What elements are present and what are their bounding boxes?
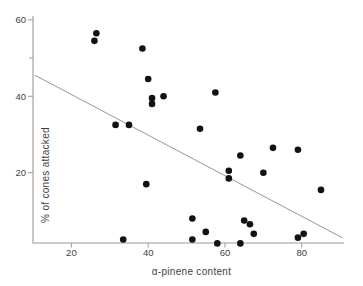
y-tick-label: 20 [15, 167, 26, 178]
data-point [202, 229, 209, 236]
axes [33, 16, 344, 243]
data-point [189, 215, 196, 222]
regression-line [35, 75, 342, 237]
data-point [160, 93, 167, 100]
data-point [295, 146, 302, 153]
scatter-chart: 20406080204060α-pinene content% of cones… [0, 0, 363, 286]
data-point [139, 45, 146, 52]
data-point [318, 187, 325, 194]
data-point [295, 234, 302, 241]
data-point [226, 167, 233, 174]
data-point [237, 152, 244, 159]
data-point [226, 175, 233, 182]
data-point [214, 240, 221, 247]
x-axis-label: α-pinene content [152, 266, 232, 277]
data-point [120, 236, 127, 243]
y-tick-label: 60 [15, 14, 26, 25]
x-tick-label: 20 [66, 247, 77, 258]
x-tick-label: 60 [220, 247, 231, 258]
data-point [145, 76, 152, 83]
data-point [126, 122, 133, 129]
data-point [189, 236, 196, 243]
data-point [241, 217, 248, 224]
data-point [149, 95, 156, 102]
data-point [300, 231, 307, 238]
data-point [112, 122, 119, 129]
data-point [270, 145, 277, 152]
data-point [143, 181, 150, 188]
data-point [250, 231, 257, 238]
y-axis-label: % of cones attacked [40, 127, 51, 223]
data-point [237, 240, 244, 247]
data-point [93, 30, 100, 37]
data-point [212, 89, 219, 96]
data-point [197, 125, 204, 132]
data-point [247, 221, 254, 228]
x-tick-label: 80 [296, 247, 307, 258]
y-tick-label: 40 [15, 91, 26, 102]
data-point [149, 101, 156, 108]
scatter-plot-figure: 20406080204060α-pinene content% of cones… [0, 0, 363, 286]
x-tick-label: 40 [143, 247, 154, 258]
data-point [91, 38, 98, 45]
data-point [260, 169, 267, 176]
